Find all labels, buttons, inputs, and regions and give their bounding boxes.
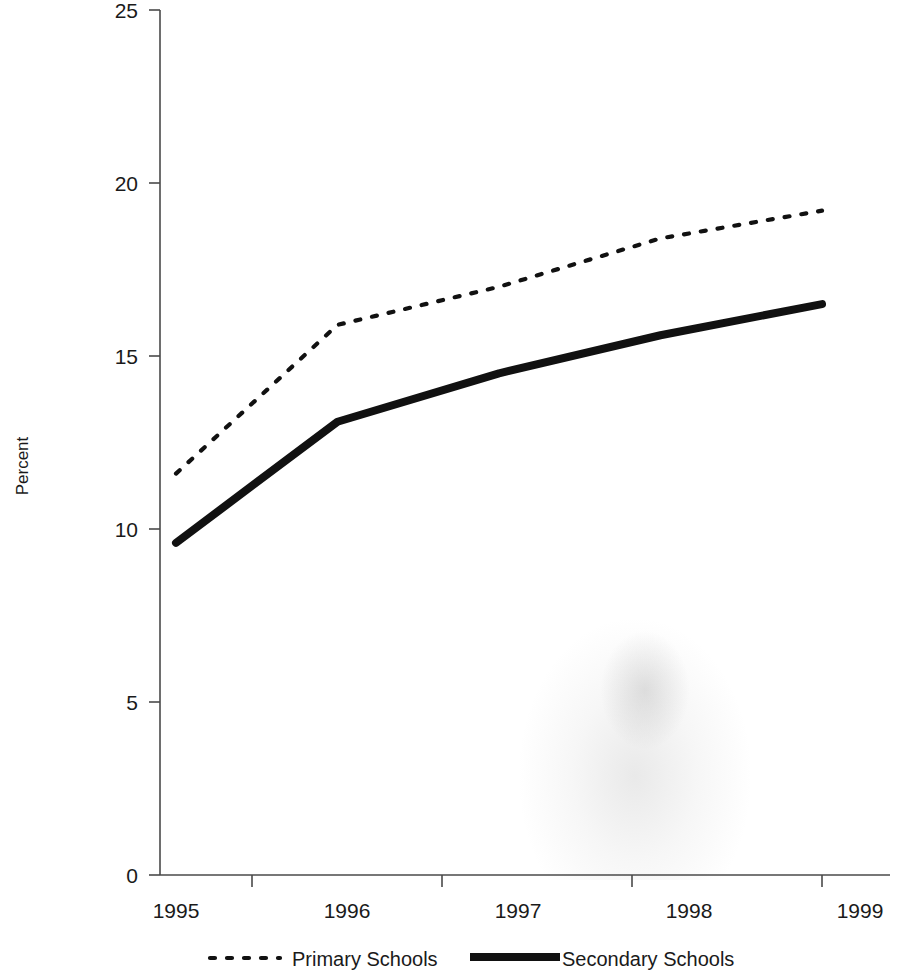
- legend-label-secondary-schools: Secondary Schools: [562, 948, 734, 970]
- chart-legend: Primary Schools Secondary Schools: [210, 948, 734, 970]
- x-tick-label-1996: 1996: [324, 899, 371, 922]
- series-line-primary-schools: [176, 211, 822, 474]
- y-tick-label-10: 10: [115, 518, 138, 541]
- x-tick-marks: [252, 875, 822, 887]
- legend-item-primary-schools: Primary Schools: [210, 948, 438, 970]
- legend-label-primary-schools: Primary Schools: [292, 948, 438, 970]
- x-tick-label-1997: 1997: [495, 899, 542, 922]
- y-tick-label-5: 5: [126, 691, 138, 714]
- y-tick-label-20: 20: [115, 172, 138, 195]
- y-tick-label-15: 15: [115, 345, 138, 368]
- y-axis-title: Percent: [13, 436, 32, 495]
- y-tick-label-0: 0: [126, 864, 138, 887]
- x-tick-label-1998: 1998: [666, 899, 713, 922]
- x-tick-label-1999: 1999: [837, 899, 884, 922]
- chart-figure: 25 20 15 10 5 0 1995 1996 1997 1998 1999…: [0, 0, 898, 979]
- y-tick-label-25: 25: [115, 0, 138, 22]
- series-line-secondary-schools: [176, 304, 822, 543]
- y-tick-marks: [149, 10, 160, 875]
- line-chart-svg: 25 20 15 10 5 0 1995 1996 1997 1998 1999…: [0, 0, 898, 979]
- legend-item-secondary-schools: Secondary Schools: [470, 948, 734, 970]
- x-tick-label-1995: 1995: [153, 899, 200, 922]
